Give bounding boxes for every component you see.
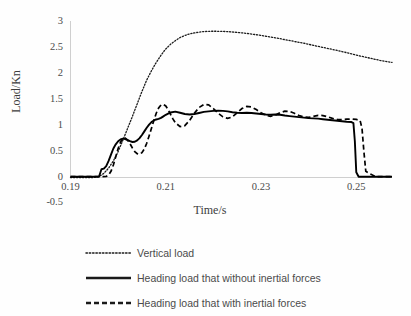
legend-item-label: Heading load that without inertial force… [137,272,321,284]
x-axis-title: Time/s [150,203,270,218]
y-tick-label: 2.5 [37,41,63,52]
y-tick-label: 3 [37,15,63,26]
y-axis-title: Load/Kn [9,59,24,125]
legend-item[interactable]: Heading load that with inertial forces [85,290,405,315]
chart-figure: Load/Kn Time/s -0.500.511.522.53 0.190.2… [0,0,411,316]
y-tick-label: -0.5 [37,196,63,207]
data-series-group [71,31,393,177]
y-tick-label: 1 [37,119,63,130]
data-series-line [71,31,393,177]
legend-item-label: Heading load that with inertial forces [137,297,306,309]
y-tick-label: 0 [37,171,63,182]
legend-item[interactable]: Heading load that without inertial force… [85,265,405,290]
data-series-line [71,111,393,177]
legend-line-dotted-icon [85,247,132,259]
legend-line-solid-icon [85,272,132,284]
x-tick-label: 0.21 [146,181,186,192]
y-tick-label: 1.5 [37,93,63,104]
legend-item-label: Vertical load [137,247,194,259]
y-tick-label: 2 [37,67,63,78]
y-tick-label: 0.5 [37,145,63,156]
chart-legend: Vertical loadHeading load that without i… [85,240,405,315]
x-tick-label: 0.19 [51,181,91,192]
axis-lines [71,21,393,178]
legend-line-dashed-icon [85,297,132,309]
x-tick-label: 0.23 [241,181,281,192]
x-tick-label: 0.25 [336,181,376,192]
legend-item[interactable]: Vertical load [85,240,405,265]
